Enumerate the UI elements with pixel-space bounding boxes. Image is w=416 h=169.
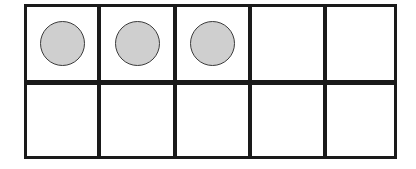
ten-frame-cell	[252, 85, 323, 156]
ten-frame-cell	[327, 85, 397, 156]
counter-circle-icon	[40, 21, 85, 66]
ten-frame-cell	[101, 85, 173, 156]
ten-frame-cell	[327, 7, 397, 80]
ten-frame	[24, 4, 397, 159]
ten-frame-cell	[101, 7, 173, 80]
ten-frame-cell	[177, 85, 248, 156]
counter-circle-icon	[115, 21, 160, 66]
ten-frame-cell	[177, 7, 248, 80]
ten-frame-cell	[252, 7, 323, 80]
ten-frame-cell	[27, 85, 97, 156]
ten-frame-cell	[27, 7, 97, 80]
counter-circle-icon	[190, 21, 235, 66]
